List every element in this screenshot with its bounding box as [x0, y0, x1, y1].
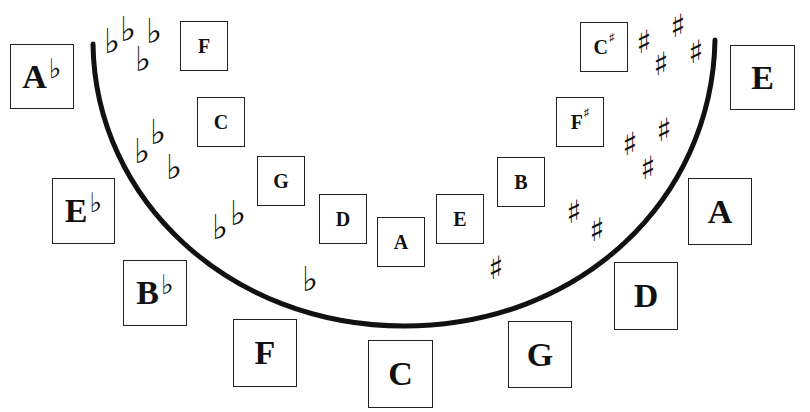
key-note-label: A	[22, 58, 47, 96]
inner-key-box: C♯	[580, 22, 628, 72]
key-note-label: B	[136, 274, 159, 312]
inner-key-box: B	[497, 157, 545, 207]
key-note-label: C	[594, 36, 608, 59]
inner-key-box: F♯	[556, 97, 604, 147]
flat-icon: ♭	[89, 187, 102, 219]
key-note-label: C	[388, 355, 413, 393]
sharp-icon: ♯	[609, 31, 615, 43]
outer-key-box: E♭	[52, 178, 115, 244]
sharp-icon: ♯	[636, 26, 651, 58]
flat-icon: ♭	[230, 196, 246, 230]
key-note-label: A	[394, 231, 408, 254]
key-note-label: F	[198, 35, 210, 58]
key-note-label: F	[571, 111, 583, 134]
outer-key-box: F	[233, 319, 297, 387]
sharp-icon: ♯	[688, 36, 703, 68]
sharp-icon: ♯	[653, 48, 668, 80]
outer-key-box: A♭	[10, 44, 74, 109]
flat-icon: ♭	[161, 269, 174, 301]
outer-key-box: B♭	[123, 260, 187, 326]
flat-icon: ♭	[120, 12, 136, 46]
key-note-label: F	[255, 334, 276, 372]
outer-key-box: G	[508, 321, 572, 388]
key-note-label: G	[527, 336, 553, 374]
outer-key-box: C	[368, 340, 433, 408]
sharp-icon: ♯	[488, 252, 503, 284]
key-note-label: D	[336, 208, 350, 231]
outer-key-box: A	[688, 178, 752, 245]
inner-key-box: E	[436, 194, 484, 244]
inner-key-box: A	[377, 217, 425, 267]
sharp-icon: ♯	[622, 128, 637, 160]
outer-key-box: D	[614, 262, 678, 330]
inner-key-box: G	[257, 156, 305, 206]
key-note-label: E	[453, 208, 466, 231]
flat-icon: ♭	[134, 134, 150, 168]
flat-icon: ♭	[104, 24, 120, 58]
inner-key-box: C	[197, 97, 245, 147]
sharp-icon: ♯	[640, 152, 655, 184]
key-note-label: E	[751, 59, 774, 97]
key-note-label: G	[273, 170, 289, 193]
flat-icon: ♭	[49, 53, 62, 85]
sharp-icon: ♯	[589, 214, 604, 246]
circle-of-fifths-diagram: A♭E♭B♭FCGDAE FCGDAEBF♯C♯ ♭♭♭♭♭♭♭♭♭♭♯♯♯♯♯…	[0, 0, 810, 412]
flat-icon: ♭	[150, 115, 166, 149]
sharp-icon: ♯	[566, 196, 581, 228]
key-note-label: A	[708, 193, 733, 231]
flat-icon: ♭	[212, 210, 228, 244]
sharp-icon: ♯	[670, 10, 685, 42]
inner-key-box: F	[180, 21, 228, 71]
key-note-label: E	[65, 192, 88, 230]
flat-icon: ♭	[302, 262, 318, 296]
key-note-label: C	[214, 111, 228, 134]
inner-key-box: D	[319, 194, 367, 244]
key-note-label: D	[634, 277, 659, 315]
outer-key-box: E	[730, 45, 795, 110]
flat-icon: ♭	[146, 14, 162, 48]
flat-icon: ♭	[166, 150, 182, 184]
sharp-icon: ♯	[656, 114, 671, 146]
key-note-label: B	[514, 171, 527, 194]
sharp-icon: ♯	[584, 106, 590, 118]
